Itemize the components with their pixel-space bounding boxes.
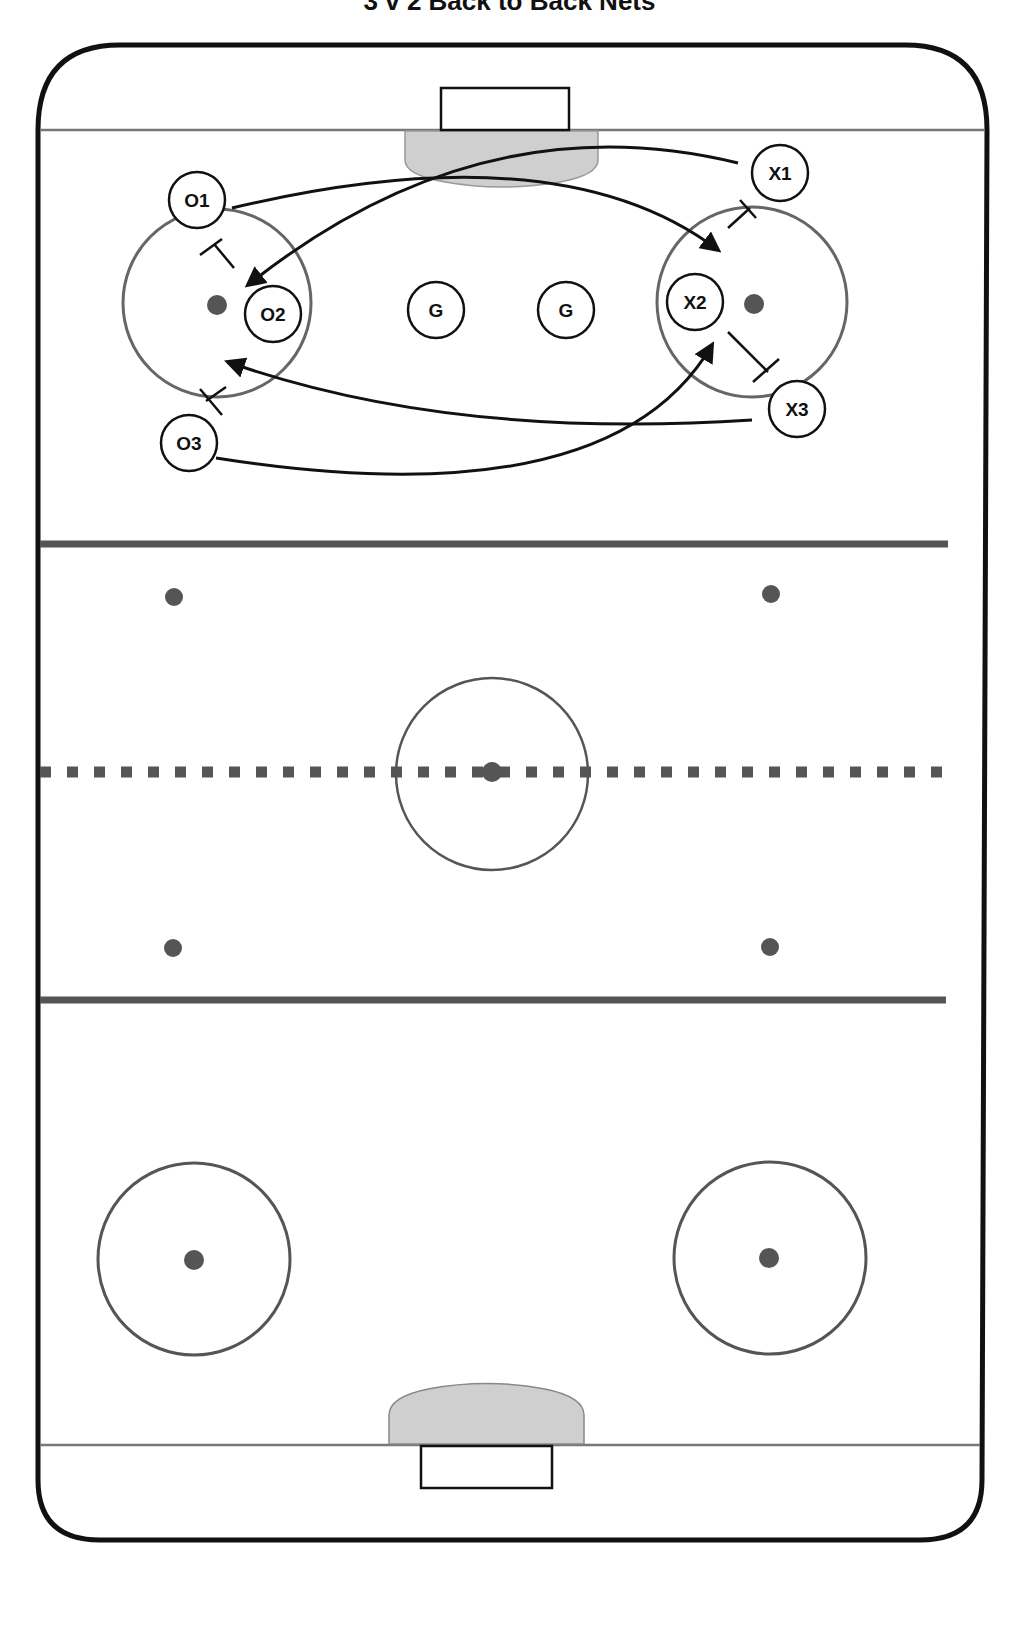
player-o2-label: O2 — [260, 304, 285, 325]
player-x3-label: X3 — [785, 399, 808, 420]
neutral-dot-1 — [165, 588, 183, 606]
player-x3: X3 — [769, 381, 825, 437]
neutral-dot-4 — [761, 938, 779, 956]
player-o3-label: O3 — [176, 433, 201, 454]
faceoff-dot-top-right — [744, 294, 764, 314]
player-g-left: G — [408, 282, 464, 338]
player-o3: O3 — [161, 415, 217, 471]
player-x2-label: X2 — [683, 292, 706, 313]
player-o2: O2 — [245, 286, 301, 342]
player-x1: X1 — [752, 145, 808, 201]
neutral-dot-2 — [762, 585, 780, 603]
neutral-dot-3 — [164, 939, 182, 957]
rink-diagram: O1 O2 O3 G G X1 X2 X3 — [0, 0, 1019, 1625]
faceoff-dot-bottom-left — [184, 1250, 204, 1270]
net-top — [441, 88, 569, 130]
player-g-right: G — [538, 282, 594, 338]
player-g-right-label: G — [559, 300, 574, 321]
player-o1: O1 — [169, 172, 225, 228]
player-x1-label: X1 — [768, 163, 792, 184]
faceoff-dot-bottom-right — [759, 1248, 779, 1268]
player-x2: X2 — [667, 274, 723, 330]
rink-boards — [38, 45, 987, 1540]
center-dot — [482, 762, 502, 782]
player-o1-label: O1 — [184, 190, 210, 211]
player-g-left-label: G — [429, 300, 444, 321]
net-bottom — [421, 1446, 552, 1488]
faceoff-dot-top-left — [207, 295, 227, 315]
goal-crease-bottom — [389, 1384, 584, 1445]
